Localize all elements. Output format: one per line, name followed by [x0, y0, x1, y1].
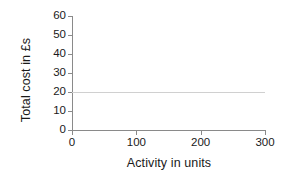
- fixed-cost-chart: Total cost in £s 6050403020100 010020030…: [0, 0, 301, 182]
- y-axis-tick-label: 30: [42, 67, 66, 79]
- x-axis-tick-label: 300: [245, 137, 285, 149]
- y-axis-tick-label: 40: [42, 48, 66, 60]
- x-axis-title: Activity in units: [72, 156, 266, 170]
- x-axis-tick: [201, 130, 202, 135]
- plot-area: [72, 16, 265, 130]
- y-axis-title: Total cost in £s: [13, 15, 39, 145]
- y-axis-tick-label: 60: [42, 10, 66, 22]
- y-axis-tick: [68, 16, 73, 17]
- y-axis-tick: [68, 54, 73, 55]
- x-axis-line: [72, 130, 266, 131]
- y-axis-tick-label: 50: [42, 29, 66, 41]
- series-line-fixed-cost: [72, 92, 265, 93]
- y-axis-tick-label: 20: [42, 86, 66, 98]
- y-axis-tick-label: 0: [42, 124, 66, 136]
- y-axis-tick: [68, 73, 73, 74]
- y-axis-tick: [68, 35, 73, 36]
- x-axis-tick: [136, 130, 137, 135]
- y-axis-tick: [68, 111, 73, 112]
- x-axis-tick-label-group: 0100200300: [72, 137, 266, 151]
- y-axis-tick-label: 10: [42, 105, 66, 117]
- y-axis-tick-label-group: 6050403020100: [41, 16, 66, 130]
- x-axis-tick-label: 100: [116, 137, 156, 149]
- x-axis-tick: [72, 130, 73, 135]
- x-axis-tick-label: 200: [181, 137, 221, 149]
- x-axis-tick-label: 0: [52, 137, 92, 149]
- x-axis-tick: [265, 130, 266, 135]
